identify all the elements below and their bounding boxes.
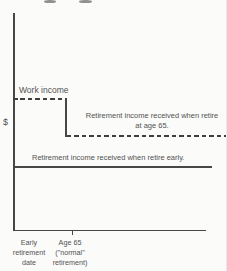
x-tick-label-age-65: Age 65 ("normal" retirement) bbox=[46, 238, 94, 268]
cropped-title-fragment bbox=[79, 0, 92, 3]
retire-early-label: Retirement income received when retire e… bbox=[32, 153, 184, 162]
x-axis-line bbox=[13, 230, 206, 232]
retire-early-line bbox=[13, 166, 212, 168]
income-drop-at-65-line bbox=[65, 98, 67, 137]
work-income-label: Work income bbox=[19, 85, 68, 95]
age-65-tick-mark bbox=[72, 231, 73, 235]
cropped-title-fragment bbox=[44, 0, 56, 3]
retirement-income-figure: $ Work income Retirement income received… bbox=[0, 0, 226, 271]
y-axis-line bbox=[13, 13, 15, 230]
y-axis-label: $ bbox=[3, 117, 8, 127]
retire-at-65-line bbox=[67, 135, 227, 137]
work-income-line bbox=[13, 98, 66, 100]
retire-at-65-label: Retirement income received when retire a… bbox=[79, 111, 225, 131]
